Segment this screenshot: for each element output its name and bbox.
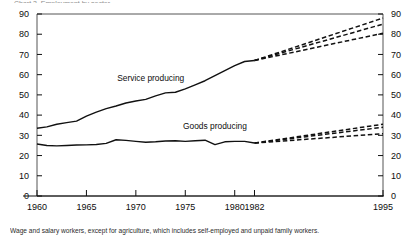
x-axis-label: 1980 xyxy=(225,202,245,212)
x-axis-label: 1982 xyxy=(244,202,264,212)
y-axis-left-label: 70 xyxy=(19,50,29,60)
y-axis-left-ticks: 0102030405060708090 xyxy=(19,9,42,201)
y-axis-right-label: 0 xyxy=(391,191,396,201)
x-axis-label: 1995 xyxy=(373,202,393,212)
series-annotation: Service producing xyxy=(117,73,184,83)
x-axis-label: 1960 xyxy=(27,202,47,212)
employment-by-sector-figure: Chart 3. Employment by sector 0102030405… xyxy=(0,0,417,235)
series-line xyxy=(254,24,383,60)
y-axis-right-label: 20 xyxy=(391,151,401,161)
y-axis-right-label: 70 xyxy=(391,50,401,60)
y-axis-right-label: 40 xyxy=(391,110,401,120)
series-line xyxy=(254,33,383,60)
x-axis-ticks: 1960196519701975198019821995 xyxy=(27,190,393,212)
annotation-layer: Service producingGoods producing xyxy=(117,73,247,132)
y-axis-right-ticks: 0102030405060708090 xyxy=(378,9,401,201)
series-line xyxy=(37,61,254,129)
y-axis-left-label: 80 xyxy=(19,29,29,39)
y-axis-left-label: 90 xyxy=(19,9,29,19)
y-axis-left-label: 10 xyxy=(19,171,29,181)
y-axis-right-label: 10 xyxy=(391,171,401,181)
series-line xyxy=(254,124,383,143)
y-axis-right-label: 50 xyxy=(391,90,401,100)
series-annotation: Goods producing xyxy=(183,121,247,131)
x-axis-label: 1970 xyxy=(126,202,146,212)
y-axis-right-label: 90 xyxy=(391,9,401,19)
y-axis-left-label: 60 xyxy=(19,70,29,80)
y-axis-left-label: 50 xyxy=(19,90,29,100)
y-axis-right-label: 80 xyxy=(391,29,401,39)
y-axis-left-label: 0 xyxy=(24,191,29,201)
x-axis-label: 1975 xyxy=(175,202,195,212)
line-chart: 0102030405060708090 0102030405060708090 … xyxy=(0,0,417,235)
x-axis-label: 1965 xyxy=(76,202,96,212)
series-line xyxy=(37,140,254,146)
figure-top-partial-text: Chart 3. Employment by sector xyxy=(14,0,134,3)
y-axis-left-label: 20 xyxy=(19,151,29,161)
series-line xyxy=(254,18,383,60)
y-axis-right-label: 60 xyxy=(391,70,401,80)
figure-footnote: Wage and salary workers, except for agri… xyxy=(10,227,410,235)
y-axis-left-label: 30 xyxy=(19,131,29,141)
y-axis-left-label: 40 xyxy=(19,110,29,120)
plot-frame xyxy=(23,14,384,196)
y-axis-right-label: 30 xyxy=(391,131,401,141)
